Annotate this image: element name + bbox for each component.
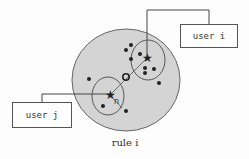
radius-label: n: [114, 97, 119, 106]
user-i-box: user i: [180, 24, 238, 48]
star-icon-user-i: ★: [142, 51, 153, 65]
diagram-canvas: ★ ★ user i user j n rule i: [0, 0, 249, 159]
user-j-box: user j: [12, 102, 72, 128]
caption-rule: rule i: [100, 137, 150, 148]
